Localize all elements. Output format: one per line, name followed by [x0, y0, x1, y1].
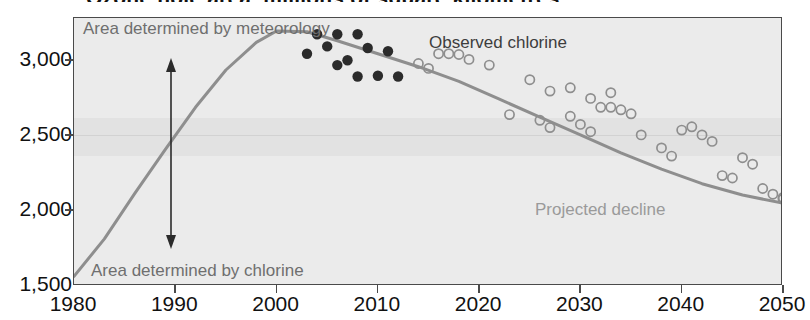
figure-headline: Ozone hole area, millions of square kilo…: [86, 0, 786, 2]
data-point: [373, 71, 383, 81]
data-point: [758, 184, 767, 193]
data-point: [677, 126, 686, 135]
data-point: [342, 55, 352, 65]
plot-area: Area determined by meteorology Observed …: [73, 17, 782, 285]
data-point: [627, 109, 636, 118]
data-point: [464, 55, 473, 64]
data-point: [596, 103, 605, 112]
x-axis-label-2040: 2040: [636, 292, 726, 316]
data-point: [322, 41, 332, 51]
data-point: [768, 190, 777, 199]
data-point: [586, 127, 595, 136]
data-point: [383, 46, 393, 56]
data-point: [738, 153, 747, 162]
data-point: [545, 87, 554, 96]
data-point: [657, 143, 666, 152]
projected-decline-points: [414, 49, 782, 204]
data-point: [332, 60, 342, 70]
data-point: [363, 43, 373, 53]
data-point: [748, 160, 757, 169]
data-point: [332, 29, 342, 39]
x-axis-label-1980: 1980: [28, 292, 118, 316]
plot-graphics: [74, 18, 782, 285]
data-point: [352, 29, 362, 39]
x-axis-label-2050: 2050: [737, 292, 810, 316]
data-point: [545, 123, 554, 132]
data-point: [566, 83, 575, 92]
x-axis-label-2030: 2030: [534, 292, 624, 316]
data-point: [616, 105, 625, 114]
data-point: [637, 130, 646, 139]
annotation-area-meteorology: Area determined by meteorology: [83, 19, 330, 39]
data-point: [302, 49, 312, 59]
annotation-projected-decline: Projected decline: [535, 200, 665, 220]
data-point: [352, 71, 362, 81]
data-point: [697, 130, 706, 139]
data-point: [667, 152, 676, 161]
x-axis-label-2000: 2000: [231, 292, 321, 316]
data-point: [687, 122, 696, 131]
x-axis-label-1990: 1990: [129, 292, 219, 316]
data-point: [566, 112, 575, 121]
data-point: [586, 94, 595, 103]
data-point: [728, 173, 737, 182]
chart-figure: Ozone hole area, millions of square kilo…: [0, 0, 810, 320]
x-axis-label-2020: 2020: [433, 292, 523, 316]
data-point: [576, 120, 585, 129]
data-point: [606, 103, 615, 112]
data-point: [718, 171, 727, 180]
data-point: [606, 88, 615, 97]
data-point: [525, 75, 534, 84]
data-point: [393, 71, 403, 81]
annotation-observed-chlorine: Observed chlorine: [429, 33, 567, 53]
data-point: [505, 110, 514, 119]
data-point: [485, 61, 494, 70]
data-point: [708, 137, 717, 146]
data-point: [778, 195, 782, 204]
range-arrow-icon: [166, 58, 176, 249]
x-axis-label-2010: 2010: [332, 292, 422, 316]
annotation-area-chlorine: Area determined by chlorine: [91, 261, 304, 281]
